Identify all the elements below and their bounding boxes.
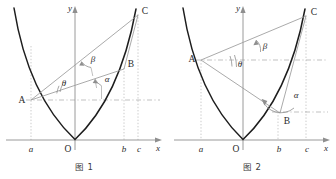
- point-label-c: C: [311, 7, 317, 17]
- x-axis-label: x: [155, 143, 160, 153]
- angle-label-theta: θ: [62, 78, 67, 88]
- angle-label-theta: θ: [238, 59, 243, 69]
- caption-figure-2: 图 2: [168, 160, 336, 172]
- origin-label: O: [233, 144, 240, 154]
- chord-ac: [31, 15, 138, 100]
- x-tick-a: a: [199, 144, 204, 154]
- origin-label: O: [65, 144, 72, 154]
- figure-container: a b c O x y A B C θ β α 图 1: [0, 0, 336, 179]
- figure-panel-1: a b c O x y A B C θ β α 图 1: [0, 0, 168, 179]
- point-label-b: B: [128, 59, 134, 69]
- x-tick-c: c: [305, 144, 309, 154]
- angle-arc-theta-outer: [235, 55, 237, 67]
- point-label-a: A: [19, 95, 26, 105]
- point-label-b: B: [284, 116, 290, 126]
- x-tick-a: a: [29, 144, 34, 154]
- x-axis-arrow: [323, 137, 330, 142]
- angle-label-beta: β: [262, 41, 268, 51]
- y-axis-label: y: [235, 3, 240, 13]
- chord-ab: [31, 69, 124, 100]
- point-label-a: A: [189, 54, 196, 64]
- y-axis-arrow: [240, 6, 245, 13]
- angle-label-beta: β: [90, 54, 96, 64]
- caption-figure-1: 图 1: [0, 160, 168, 172]
- x-tick-c: c: [137, 144, 141, 154]
- angle-label-alpha: α: [294, 90, 299, 100]
- figure-panel-2: a b c O x y A B C θ β α 图 2: [168, 0, 336, 179]
- angle-arc-theta-outer: [57, 86, 59, 94]
- x-axis-arrow: [155, 137, 162, 142]
- angle-ray-beta: [91, 68, 93, 77]
- angle-arrow-alpha: [93, 79, 98, 83]
- angle-label-alpha: α: [105, 74, 110, 84]
- chord-ac: [201, 16, 306, 60]
- x-axis-label: x: [323, 143, 328, 153]
- diagram-1: a b c O x y A B C θ β α: [0, 0, 168, 160]
- angle-arc-theta: [230, 56, 232, 67]
- diagram-2: a b c O x y A B C θ β α: [168, 0, 336, 160]
- y-axis-arrow: [72, 6, 77, 13]
- x-tick-b: b: [122, 144, 127, 154]
- y-axis-label: y: [67, 3, 72, 13]
- point-label-c: C: [142, 6, 148, 16]
- angle-arrow-alpha: [262, 99, 267, 106]
- x-tick-b: b: [277, 144, 282, 154]
